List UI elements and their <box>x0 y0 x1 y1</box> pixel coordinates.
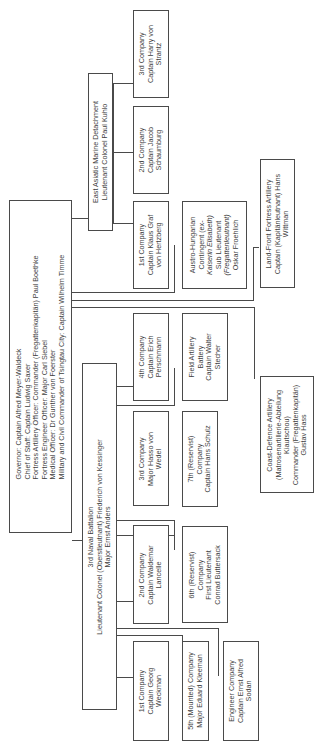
connector <box>113 83 133 84</box>
connector <box>113 83 114 223</box>
connector <box>117 677 133 678</box>
connector <box>174 245 175 293</box>
connector <box>72 307 255 308</box>
bn-7th-reservist-company-box: 7th (Reservist) Company Captain Hans Sch… <box>182 411 218 507</box>
connector <box>254 307 255 379</box>
east-asiatic-detachment-box: East Asiatic Marine Detachment Lieutenan… <box>88 73 113 231</box>
connector <box>117 635 183 636</box>
connector <box>72 292 174 293</box>
bn-1st-company-box: 1st Company Captain Georg Weckman <box>133 641 169 741</box>
bn-2nd-company-box: 2nd Company Captain Waldemar Lancelle <box>133 525 169 624</box>
connector <box>72 218 88 219</box>
connector <box>253 247 259 248</box>
connector <box>72 300 254 301</box>
bn-4th-company-box: 4th Company Captain Erich Perschmann <box>133 313 169 401</box>
ea-2nd-company-box: 2nd Company Captain Jacob Schaumburg <box>133 106 169 194</box>
connector <box>117 601 133 602</box>
connector <box>174 520 175 540</box>
connector <box>117 386 133 387</box>
connector <box>174 368 175 406</box>
naval-battalion-box: 3rd Naval Battalion Lieutenant Colonel (… <box>82 363 117 710</box>
connector <box>113 223 133 224</box>
governor-box: Governor: Captain Alfred Meyer-Waldeck C… <box>9 200 72 533</box>
bn-3rd-company-box: 3rd Company Major Hasso von Wedel <box>133 411 169 506</box>
land-front-artillery-box: Land-Front Fortress Artillery Captain (K… <box>260 159 295 288</box>
connector <box>117 628 219 629</box>
connector <box>218 628 219 676</box>
coast-defence-artillery-box: Coast-Defence Artillery (Matrosenartille… <box>260 376 314 493</box>
governor-text: Governor: Captain Alfred Meyer-Waldeck C… <box>15 254 67 479</box>
bn-6th-reservist-company-box: 6th (Reservist) Company First Lieutenant… <box>182 526 228 623</box>
bn-5th-mounted-company-box: 5th (Mounted) Company Major Eduard Kleem… <box>182 641 209 741</box>
austro-hungarian-contingent-box: Austro-Hungarian Contingent (ex- Kaiseri… <box>182 201 247 289</box>
connector <box>117 520 174 521</box>
ea-1st-company-box: 1st Company Captain Klaus Graf von Hertz… <box>133 201 169 289</box>
connector <box>253 247 254 301</box>
connector <box>117 405 174 406</box>
connector <box>113 152 133 153</box>
bn-engineer-company-box: Engineer Company Captain Ernst Alfred So… <box>223 641 259 741</box>
field-artillery-battery-box: Field Artillery Battery Captain Walter S… <box>182 313 228 401</box>
ea-3rd-company-box: 3rd Company Captain Harry von Strantz <box>133 10 169 98</box>
